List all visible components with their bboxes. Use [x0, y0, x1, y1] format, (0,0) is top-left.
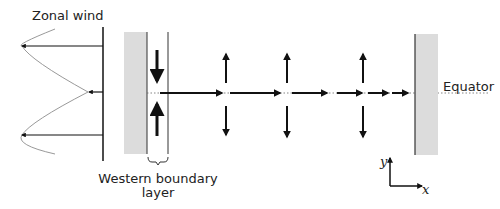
x-axis-label: x [422, 182, 430, 197]
equatorial-wave-diagram: Zonal wind Western boundary layer Equa [0, 0, 500, 209]
western-boundary-label-line1: Western boundary [98, 171, 218, 186]
western-boundary-wall [124, 32, 147, 154]
eastern-boundary-wall [415, 34, 438, 155]
equator-label: Equator [443, 79, 495, 94]
western-boundary-label-line2: layer [142, 185, 175, 200]
boundary-layer-brace [148, 157, 168, 165]
meridional-arrows [226, 54, 363, 137]
zonal-wind-profile: Zonal wind [21, 8, 104, 161]
y-axis-label: y [379, 154, 388, 169]
coordinate-axes: y x [379, 154, 430, 197]
zonal-wind-label: Zonal wind [32, 8, 104, 23]
